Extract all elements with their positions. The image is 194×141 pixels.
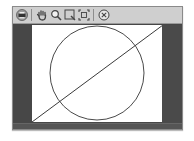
drawing-canvas[interactable] <box>32 25 163 122</box>
circle-shape <box>50 26 144 120</box>
fit-button[interactable] <box>77 9 90 22</box>
print-button[interactable] <box>15 9 28 22</box>
canvas-graphics <box>32 25 163 122</box>
zoom-rect-icon <box>64 9 76 21</box>
bottom-frame <box>13 123 182 129</box>
zoom-button[interactable] <box>49 9 62 22</box>
toolbar <box>13 7 182 24</box>
close-circle-icon <box>98 9 110 21</box>
close-button[interactable] <box>97 9 110 22</box>
toolbar-separator <box>31 9 32 21</box>
printer-icon <box>16 9 28 21</box>
zoom-box-button[interactable] <box>63 9 76 22</box>
diagonal-line <box>32 25 163 122</box>
pan-button[interactable] <box>35 9 48 22</box>
hand-icon <box>36 9 48 21</box>
toolbar-separator <box>93 9 94 21</box>
viewer-window <box>12 6 183 130</box>
fit-extent-icon <box>78 9 90 21</box>
right-frame <box>162 25 182 125</box>
magnifier-icon <box>50 9 62 21</box>
